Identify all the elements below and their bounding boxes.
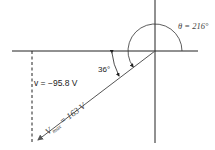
angle-36-arc xyxy=(112,53,119,76)
phasor-diagram: θ = 216° 36° v = −95.8 V Vmax = 163 V xyxy=(0,0,215,150)
vector-magnitude-label: Vmax = 163 V xyxy=(43,100,89,138)
theta-label: θ = 216° xyxy=(178,21,209,31)
svg-text:Vmax = 163 V: Vmax = 163 V xyxy=(43,100,89,138)
instantaneous-voltage-label: v = −95.8 V xyxy=(34,78,78,88)
angle-label: 36° xyxy=(98,65,110,74)
